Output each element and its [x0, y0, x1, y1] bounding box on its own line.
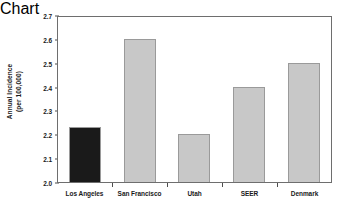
x-axis-tick-mark	[112, 183, 113, 187]
bar-utah[interactable]	[178, 134, 210, 182]
x-axis-label-los-angeles: Los Angeles	[57, 190, 112, 204]
bar-san-francisco[interactable]	[124, 39, 156, 182]
bar-seer[interactable]	[233, 87, 265, 182]
bar-denmark[interactable]	[288, 63, 320, 182]
y-axis-title: Annual Incidence (per 100,000)	[4, 0, 26, 183]
bar-slot	[167, 17, 222, 182]
x-axis-tick-mark	[222, 183, 223, 187]
y-axis-title-line1: Annual Incidence	[7, 64, 14, 119]
x-axis-label-denmark: Denmark	[277, 190, 332, 204]
x-axis-tick-mark	[277, 183, 278, 187]
x-axis-category-labels: Los AngelesSan FranciscoUtahSEERDenmark	[57, 190, 332, 204]
y-axis-tick-label: 2.4	[43, 84, 52, 91]
x-axis-label-utah: Utah	[167, 190, 222, 204]
y-axis-title-line2: (per 100,000)	[15, 71, 22, 112]
y-axis-tick-label: 2.6	[43, 36, 52, 43]
bar-slot	[276, 17, 331, 182]
y-axis-tick-label: 2.2	[43, 132, 52, 139]
bar-slot	[113, 17, 168, 182]
y-axis-tick-label: 2.1	[43, 156, 52, 163]
y-axis-tick-label: 2.7	[43, 13, 52, 20]
bar-series	[58, 17, 331, 182]
bar-chart: Annual Incidence (per 100,000) 2.02.12.2…	[0, 0, 342, 211]
x-axis-label-san-francisco: San Francisco	[112, 190, 167, 204]
y-axis-tick-label: 2.0	[43, 180, 52, 187]
x-axis-tick-mark	[167, 183, 168, 187]
x-axis-tick-marks	[57, 183, 332, 188]
bar-slot	[58, 17, 113, 182]
y-axis-tick-label: 2.3	[43, 108, 52, 115]
y-axis-tick-labels: 2.02.12.22.32.42.52.62.7	[26, 10, 55, 184]
y-axis-tick-label: 2.5	[43, 60, 52, 67]
bar-slot	[222, 17, 277, 182]
x-axis-label-seer: SEER	[222, 190, 277, 204]
plot-area	[57, 16, 332, 183]
bar-los-angeles[interactable]	[69, 127, 101, 182]
